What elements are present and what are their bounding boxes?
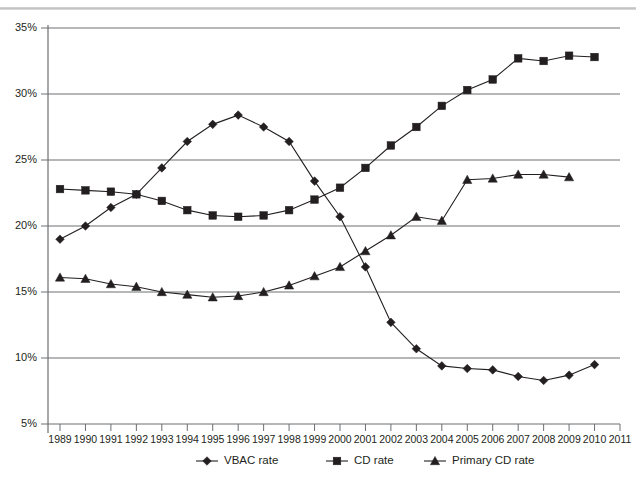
x-axis-label-2007: 2007 [507, 433, 531, 445]
x-axis-label-1992: 1992 [125, 433, 149, 445]
data-point-diamond-10 [310, 177, 319, 186]
data-point-square-17 [489, 76, 497, 84]
legend-marker-square [333, 457, 341, 465]
data-point-square-11 [336, 184, 344, 192]
data-point-triangle-12 [361, 246, 370, 254]
data-point-diamond-12 [361, 263, 370, 272]
legend-item-cd-rate: CD rate [326, 454, 394, 466]
data-point-square-12 [362, 164, 370, 172]
y-axis-label-15%: 15% [15, 285, 37, 297]
data-point-triangle-14 [412, 212, 421, 220]
data-point-square-2 [107, 188, 115, 196]
y-axis-label-10%: 10% [15, 351, 37, 363]
data-point-diamond-21 [590, 360, 599, 369]
data-point-square-21 [591, 53, 599, 61]
data-point-square-5 [183, 206, 191, 214]
data-point-diamond-2 [107, 203, 116, 212]
x-axis-label-1996: 1996 [227, 433, 251, 445]
x-axis-label-1994: 1994 [176, 433, 200, 445]
data-point-square-7 [234, 213, 242, 221]
data-point-diamond-8 [259, 123, 268, 132]
data-point-square-3 [133, 191, 141, 199]
x-axis-label-1999: 1999 [303, 433, 327, 445]
data-point-diamond-6 [208, 120, 217, 129]
data-point-diamond-17 [488, 366, 497, 375]
x-axis-label-1990: 1990 [74, 433, 98, 445]
data-point-square-19 [540, 57, 548, 65]
chart-container: 5%10%15%20%25%30%35%19891990199119921993… [0, 0, 636, 480]
data-point-diamond-18 [514, 372, 523, 381]
x-axis-label-2004: 2004 [430, 433, 454, 445]
x-axis-label-1991: 1991 [99, 433, 123, 445]
legend-label-diamond: VBAC rate [224, 454, 278, 466]
line-chart: 5%10%15%20%25%30%35%19891990199119921993… [0, 0, 636, 480]
x-axis-label-2008: 2008 [532, 433, 556, 445]
legend-label-triangle: Primary CD rate [452, 454, 534, 466]
data-point-square-10 [311, 196, 319, 204]
series-cd-rate [56, 52, 598, 221]
x-axis-label-1998: 1998 [277, 433, 301, 445]
x-axis-label-1993: 1993 [150, 433, 174, 445]
x-axis-label-2009: 2009 [557, 433, 581, 445]
legend-item-primary-cd-rate: Primary CD rate [424, 454, 534, 466]
data-point-triangle-9 [284, 281, 293, 289]
data-point-diamond-0 [56, 235, 65, 244]
data-point-triangle-13 [386, 231, 395, 239]
y-axis-label-20%: 20% [15, 219, 37, 231]
data-point-square-13 [387, 142, 395, 150]
x-axis-label-1995: 1995 [201, 433, 225, 445]
x-axis-label-2000: 2000 [328, 433, 352, 445]
data-point-triangle-11 [335, 262, 344, 270]
legend-label-square: CD rate [354, 454, 394, 466]
data-point-square-1 [82, 187, 90, 195]
page-top-rule [0, 7, 636, 10]
series-line-diamond [60, 115, 595, 380]
y-axis-label-25%: 25% [15, 153, 37, 165]
data-point-square-18 [514, 55, 522, 63]
data-point-diamond-1 [81, 222, 90, 231]
x-axis-label-2001: 2001 [354, 433, 378, 445]
data-point-diamond-11 [336, 212, 345, 221]
data-point-square-4 [158, 197, 166, 205]
data-point-square-9 [285, 206, 293, 214]
x-axis-label-2011: 2011 [609, 433, 632, 445]
data-point-diamond-9 [285, 137, 294, 146]
x-axis-label-2006: 2006 [481, 433, 505, 445]
data-point-square-8 [260, 212, 268, 220]
legend-item-vbac-rate: VBAC rate [196, 454, 278, 466]
x-axis-label-1989: 1989 [48, 433, 72, 445]
data-point-square-6 [209, 212, 217, 220]
data-point-triangle-0 [55, 273, 64, 281]
data-point-square-20 [565, 52, 573, 60]
x-axis-label-2002: 2002 [379, 433, 403, 445]
data-point-diamond-15 [438, 362, 447, 371]
data-point-diamond-16 [463, 364, 472, 373]
data-point-diamond-19 [539, 376, 548, 385]
legend-marker-diamond [203, 457, 212, 466]
series-primary-cd-rate [55, 170, 573, 301]
data-point-triangle-10 [310, 272, 319, 280]
x-axis-label-1997: 1997 [252, 433, 276, 445]
data-point-square-15 [438, 102, 446, 110]
data-point-diamond-20 [565, 371, 574, 380]
y-axis-label-5%: 5% [21, 417, 37, 429]
y-axis-label-30%: 30% [15, 87, 37, 99]
x-axis-label-2003: 2003 [405, 433, 429, 445]
x-axis-label-2005: 2005 [456, 433, 480, 445]
y-axis-label-35%: 35% [15, 21, 37, 33]
x-axis-label-2010: 2010 [583, 433, 607, 445]
data-point-square-0 [56, 185, 64, 193]
data-point-square-14 [413, 123, 421, 131]
data-point-diamond-7 [234, 111, 243, 120]
data-point-square-16 [463, 86, 471, 94]
series-vbac-rate [56, 111, 599, 385]
